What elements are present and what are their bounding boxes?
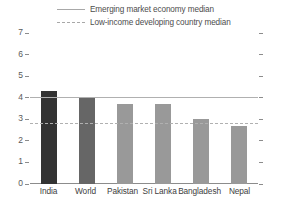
y-tick-label: 2 [18, 135, 23, 145]
bar-slot [182, 33, 220, 184]
y-tick-label: 5 [18, 70, 23, 80]
legend-solid-line-icon [57, 6, 85, 14]
y-tick-label: 7 [18, 27, 23, 37]
y-tick-label: 4 [18, 92, 23, 102]
y-tick-mark-right [259, 76, 263, 77]
y-tick-label: 6 [18, 49, 23, 59]
y-tick-mark-left [25, 119, 29, 120]
bar-slot [144, 33, 182, 184]
legend-label-emerging-market: Emerging market economy median [90, 5, 214, 14]
category-label-bangladesh: Bangladesh [178, 186, 221, 196]
bar-series [30, 33, 258, 184]
y-tick-mark-right [259, 162, 263, 163]
reference-line-low-income [30, 123, 258, 124]
legend-label-low-income: Low-income developing country median [90, 18, 231, 27]
y-tick-mark-left [25, 33, 29, 34]
bar-sri-lanka [155, 104, 171, 184]
y-tick-mark-left [25, 54, 29, 55]
bar-slot [106, 33, 144, 184]
y-tick-label: 0 [18, 178, 23, 188]
bar-pakistan [117, 104, 133, 184]
bar-slot [220, 33, 258, 184]
y-tick-label: 3 [18, 113, 23, 123]
y-tick-mark-left [25, 76, 29, 77]
bar-world [79, 98, 95, 184]
x-axis-category-labels: IndiaWorldPakistanSri LankaBangladeshNep… [30, 186, 258, 196]
bar-slot [68, 33, 106, 184]
y-tick-mark-right [259, 97, 263, 98]
y-tick-mark-right [259, 33, 263, 34]
category-label-world: World [67, 186, 104, 196]
bar-chart: Emerging market economy median Low-incom… [0, 0, 281, 213]
y-tick-mark-right [259, 119, 263, 120]
category-label-sri-lanka: Sri Lanka [141, 186, 178, 196]
category-label-pakistan: Pakistan [104, 186, 141, 196]
y-tick-label: 1 [18, 156, 23, 166]
plot-area: 76543210 [30, 33, 258, 184]
y-tick-mark-left [25, 140, 29, 141]
reference-line-emerging-market [30, 97, 258, 98]
y-tick-mark-left [25, 162, 29, 163]
y-tick-mark-left [25, 184, 29, 185]
legend-item-emerging-market: Emerging market economy median [57, 3, 277, 16]
y-tick-mark-right [259, 184, 263, 185]
category-label-india: India [30, 186, 67, 196]
bar-slot [30, 33, 68, 184]
legend-item-low-income: Low-income developing country median [57, 16, 277, 29]
bar-india [41, 91, 57, 184]
chart-legend: Emerging market economy median Low-incom… [57, 3, 277, 29]
bar-bangladesh [193, 119, 209, 184]
category-label-nepal: Nepal [221, 186, 258, 196]
y-tick-mark-left [25, 97, 29, 98]
y-tick-mark-right [259, 140, 263, 141]
y-tick-mark-right [259, 54, 263, 55]
bar-nepal [231, 126, 247, 184]
legend-dashed-line-icon [57, 19, 85, 27]
